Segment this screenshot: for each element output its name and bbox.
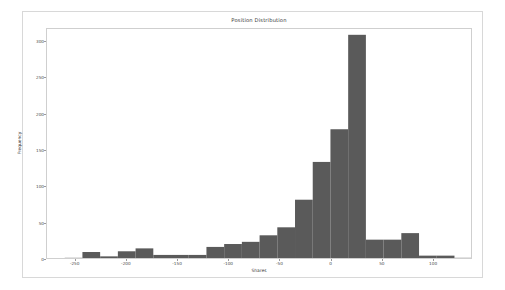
x-tick-mark xyxy=(433,259,434,261)
y-tick-label: 150 xyxy=(36,148,44,153)
x-tick-mark xyxy=(331,259,332,261)
x-tick-label: 50 xyxy=(379,261,384,267)
y-axis-tick-labels: 050100150200250300 xyxy=(28,0,44,290)
histogram-bar xyxy=(206,247,224,258)
y-axis-label: Frequency xyxy=(17,132,23,155)
histogram-bars xyxy=(47,29,471,258)
x-tick-mark xyxy=(177,259,178,261)
x-tick-label: 100 xyxy=(429,261,437,267)
y-tick-mark xyxy=(44,77,46,78)
histogram-bar xyxy=(330,129,348,258)
figure-canvas: Position Distribution 050100150200250300… xyxy=(0,0,505,290)
x-tick-label: -150 xyxy=(172,261,182,267)
histogram-bar xyxy=(242,242,260,258)
histogram-bar xyxy=(118,251,136,258)
histogram-bar xyxy=(313,162,331,258)
y-tick-label: 300 xyxy=(36,39,44,44)
x-tick-mark xyxy=(75,259,76,261)
histogram-bar xyxy=(171,255,189,258)
plot-axes xyxy=(46,28,472,259)
y-tick-mark xyxy=(44,223,46,224)
plot-area xyxy=(47,29,471,258)
histogram-bar xyxy=(401,233,419,258)
x-tick-label: 0 xyxy=(329,261,332,267)
histogram-bar xyxy=(348,35,366,258)
histogram-bar xyxy=(224,244,242,258)
y-tick-mark xyxy=(44,259,46,260)
histogram-bar xyxy=(366,240,384,258)
histogram-bar xyxy=(100,256,118,258)
histogram-bar xyxy=(384,240,402,258)
histogram-bar xyxy=(277,227,295,258)
histogram-bar xyxy=(136,248,154,258)
y-tick-mark xyxy=(44,150,46,151)
x-tick-mark xyxy=(228,259,229,261)
histogram-bar xyxy=(82,252,100,258)
x-tick-mark xyxy=(382,259,383,261)
y-tick-label: 200 xyxy=(36,111,44,116)
chart-title: Position Distribution xyxy=(46,16,472,24)
y-tick-label: 250 xyxy=(36,75,44,80)
histogram-bar xyxy=(419,256,437,258)
x-tick-label: -200 xyxy=(121,261,131,267)
x-tick-mark xyxy=(279,259,280,261)
histogram-bar xyxy=(260,235,278,258)
histogram-bar xyxy=(295,200,313,258)
histogram-bar xyxy=(189,255,207,258)
y-tick-mark xyxy=(44,114,46,115)
y-tick-mark xyxy=(44,186,46,187)
x-tick-label: -50 xyxy=(276,261,283,267)
x-tick-label: -250 xyxy=(70,261,80,267)
x-tick-label: -100 xyxy=(224,261,234,267)
histogram-bar xyxy=(437,256,455,258)
y-tick-mark xyxy=(44,41,46,42)
x-axis-label: Shares xyxy=(46,268,472,274)
x-tick-mark xyxy=(126,259,127,261)
histogram-bar xyxy=(153,255,171,258)
y-tick-label: 100 xyxy=(36,184,44,189)
